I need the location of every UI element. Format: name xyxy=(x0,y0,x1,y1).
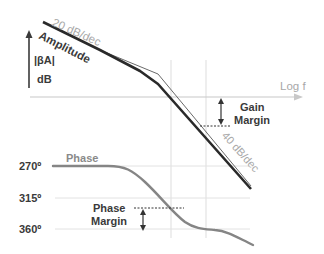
gain-margin-label-1: Gain xyxy=(240,102,264,113)
phase-label: Phase xyxy=(66,153,98,164)
asymptote-line xyxy=(95,48,251,186)
x-axis-label: Log f xyxy=(280,81,306,93)
tick-270: 270º xyxy=(19,161,41,172)
y-axis-arrow-icon xyxy=(26,30,33,88)
y-axis-label-magnitude: |βA| xyxy=(34,55,55,66)
phase-margin-label-1: Phase xyxy=(93,203,125,214)
tick-360: 360º xyxy=(19,224,41,235)
tick-315: 315º xyxy=(19,193,41,204)
phase-line xyxy=(53,166,253,245)
gain-margin-marker xyxy=(200,98,230,126)
gain-margin-label-2: Margin xyxy=(234,115,270,126)
phase-margin-label-2: Margin xyxy=(91,216,127,227)
phase-margin-marker xyxy=(134,208,184,231)
y-axis-label-db: dB xyxy=(37,74,52,85)
